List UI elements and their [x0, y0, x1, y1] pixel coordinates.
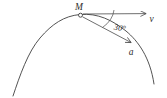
- velocity-label: v: [149, 14, 154, 24]
- point-marker: [79, 13, 83, 17]
- angle-arc: [103, 10, 115, 28]
- point-label: M: [74, 2, 84, 12]
- diagram-canvas: M v a 30°: [0, 0, 167, 98]
- angle-label: 30°: [112, 21, 127, 33]
- physics-trajectory-diagram: M v a 30°: [0, 0, 167, 98]
- acceleration-label: a: [129, 47, 134, 57]
